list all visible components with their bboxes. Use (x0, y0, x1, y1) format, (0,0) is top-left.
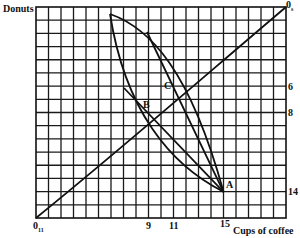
x-tick-15: 15 (220, 219, 230, 229)
point-a-label: A (226, 180, 233, 190)
diagram-canvas (0, 0, 300, 238)
edgeworth-box-diagram: Donuts 0s 011 9 11 15 Cups of coffee 6 8… (0, 0, 300, 238)
origin-top-right: 0s (286, 0, 293, 14)
origin-top-right-sub: s (291, 6, 293, 12)
origin-bottom-left-sub: 11 (38, 227, 44, 233)
origin-bottom-left: 011 (33, 221, 44, 235)
x-tick-11: 11 (169, 221, 178, 231)
y-tick-8: 8 (288, 108, 293, 118)
y-tick-6: 6 (288, 82, 293, 92)
y-axis-label: Donuts (3, 4, 34, 14)
point-c-label: C (164, 81, 171, 91)
x-tick-9: 9 (146, 221, 151, 231)
y-tick-14: 14 (288, 187, 298, 197)
x-axis-label: Cups of coffee (233, 226, 294, 236)
point-b-label: B (143, 100, 150, 110)
